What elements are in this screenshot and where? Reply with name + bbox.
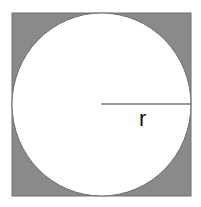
- circle-inscribed-in-square-diagram: r: [0, 0, 201, 207]
- radius-label: r: [139, 106, 146, 131]
